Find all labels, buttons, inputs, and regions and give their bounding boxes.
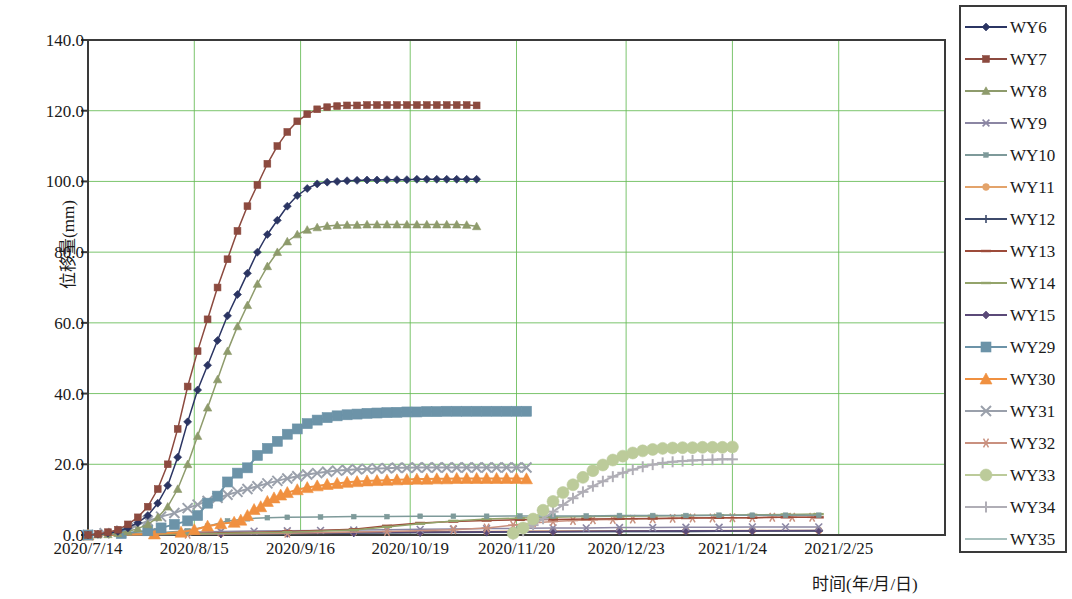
x-axis-title: 时间(年/月/日): [812, 570, 918, 595]
legend-item-wy35[interactable]: WY35: [961, 523, 1065, 555]
legend-label: WY13: [1007, 243, 1055, 260]
legend-swatch-icon: [965, 401, 1007, 421]
x-tick-label: 2020/10/19: [371, 540, 448, 557]
legend-swatch-icon: [965, 113, 1007, 133]
legend-swatch-icon: [965, 177, 1007, 197]
legend-swatch-icon: [965, 433, 1007, 453]
legend-label: WY30: [1007, 371, 1055, 388]
legend-item-wy30[interactable]: WY30: [961, 363, 1065, 395]
legend-swatch-icon: [965, 49, 1007, 69]
legend-label: WY33: [1007, 467, 1055, 484]
legend-swatch-icon: [965, 337, 1007, 357]
series-WY6: [84, 175, 481, 539]
legend-label: WY9: [1007, 115, 1047, 132]
legend-swatch-icon: [965, 273, 1007, 293]
legend-item-wy10[interactable]: WY10: [961, 139, 1065, 171]
legend-swatch-icon: [965, 145, 1007, 165]
legend-item-wy34[interactable]: WY34: [961, 491, 1065, 523]
x-tick-label: 2020/9/16: [266, 540, 335, 557]
series-WY8: [84, 220, 481, 538]
legend-label: WY14: [1007, 275, 1055, 292]
legend-swatch-icon: [965, 209, 1007, 229]
legend-label: WY15: [1007, 307, 1055, 324]
legend-swatch-icon: [965, 17, 1007, 37]
legend-label: WY10: [1007, 147, 1055, 164]
y-tick-label: 140.0: [22, 32, 84, 49]
x-tick-label: 2020/8/15: [160, 540, 229, 557]
legend-item-wy33[interactable]: WY33: [961, 459, 1065, 491]
x-tick-label: 2020/7/14: [54, 540, 123, 557]
legend-label: WY31: [1007, 403, 1055, 420]
legend-label: WY29: [1007, 339, 1055, 356]
legend-swatch-icon: [965, 369, 1007, 389]
legend: WY6WY7WY8WY9WY10WY11WY12WY13WY14WY15WY29…: [959, 5, 1067, 553]
x-tick-label: 2021/2/25: [804, 540, 873, 557]
legend-item-wy6[interactable]: WY6: [961, 11, 1065, 43]
legend-label: WY32: [1007, 435, 1055, 452]
plot-area: [0, 0, 1072, 599]
legend-label: WY35: [1007, 531, 1055, 548]
legend-label: WY12: [1007, 211, 1055, 228]
legend-label: WY8: [1007, 83, 1047, 100]
y-tick-label: 60.0: [22, 314, 84, 331]
legend-swatch-icon: [965, 529, 1007, 549]
legend-label: WY6: [1007, 19, 1047, 36]
legend-label: WY11: [1007, 179, 1055, 196]
y-tick-label: 40.0: [22, 385, 84, 402]
legend-swatch-icon: [965, 305, 1007, 325]
legend-swatch-icon: [965, 241, 1007, 261]
x-axis-tick-labels: 2020/7/142020/8/152020/9/162020/10/19202…: [0, 540, 1072, 568]
legend-label: WY34: [1007, 499, 1055, 516]
legend-label: WY7: [1007, 51, 1047, 68]
legend-swatch-icon: [965, 465, 1007, 485]
legend-item-wy15[interactable]: WY15: [961, 299, 1065, 331]
y-axis-title: 位移量(mm): [54, 185, 79, 305]
legend-item-wy32[interactable]: WY32: [961, 427, 1065, 459]
y-tick-label: 20.0: [22, 456, 84, 473]
legend-item-wy14[interactable]: WY14: [961, 267, 1065, 299]
legend-item-wy8[interactable]: WY8: [961, 75, 1065, 107]
legend-swatch-icon: [965, 81, 1007, 101]
x-tick-label: 2020/12/23: [587, 540, 664, 557]
displacement-line-chart: 0.020.040.060.080.0100.0120.0140.0 2020/…: [0, 0, 1072, 599]
y-tick-label: 120.0: [22, 102, 84, 119]
legend-item-wy11[interactable]: WY11: [961, 171, 1065, 203]
legend-item-wy13[interactable]: WY13: [961, 235, 1065, 267]
x-tick-label: 2021/1/24: [698, 540, 767, 557]
x-tick-label: 2020/11/20: [478, 540, 555, 557]
series-layer: [82, 102, 824, 540]
legend-swatch-icon: [965, 497, 1007, 517]
legend-item-wy31[interactable]: WY31: [961, 395, 1065, 427]
legend-item-wy7[interactable]: WY7: [961, 43, 1065, 75]
legend-item-wy9[interactable]: WY9: [961, 107, 1065, 139]
legend-item-wy29[interactable]: WY29: [961, 331, 1065, 363]
legend-item-wy12[interactable]: WY12: [961, 203, 1065, 235]
series-WY7: [85, 102, 480, 539]
